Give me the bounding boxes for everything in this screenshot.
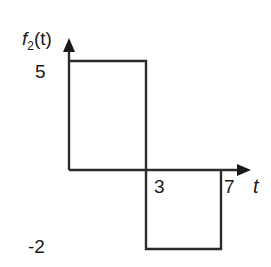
y-axis-label: f2(t) [22, 28, 52, 53]
x-tick-3: 3 [154, 176, 165, 197]
x-axis-label: t [253, 175, 260, 197]
x-tick-7: 7 [224, 176, 235, 197]
positive-pulse [69, 61, 146, 170]
y-axis-arrow-icon [63, 38, 75, 52]
x-axis-arrow-icon [237, 164, 251, 176]
piecewise-signal-plot: f2(t) 5 -2 3 7 t [0, 0, 271, 267]
y-tick-5: 5 [35, 61, 46, 82]
y-tick-neg2: -2 [28, 236, 45, 257]
